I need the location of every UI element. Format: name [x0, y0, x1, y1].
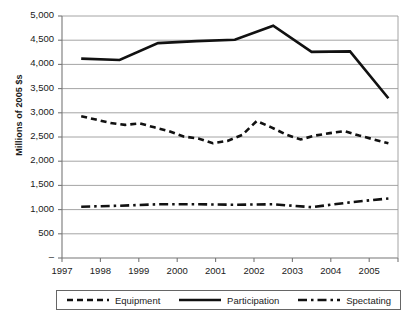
series-line-participation	[81, 26, 388, 99]
legend-swatch-dotted-icon	[66, 295, 110, 305]
legend-swatch-dash-dot-icon	[297, 295, 341, 305]
chart-figure: Millions of 2005 $s 5,0004,5004,0003,500…	[0, 0, 416, 317]
chart-plot-area	[0, 0, 416, 317]
legend-label: Participation	[227, 295, 279, 306]
legend-item-spectating[interactable]: Spectating	[297, 295, 391, 306]
legend-item-participation[interactable]: Participation	[178, 295, 279, 306]
data-series-layer	[81, 26, 388, 208]
axis-tick-marks	[58, 16, 398, 262]
chart-legend: EquipmentParticipationSpectating	[56, 290, 401, 310]
legend-item-equipment[interactable]: Equipment	[66, 295, 160, 306]
legend-label: Spectating	[346, 295, 391, 306]
legend-label: Equipment	[115, 295, 160, 306]
series-line-spectating	[81, 198, 388, 207]
legend-swatch-solid-icon	[178, 295, 222, 305]
series-line-equipment	[81, 116, 388, 143]
gridlines	[62, 16, 398, 234]
